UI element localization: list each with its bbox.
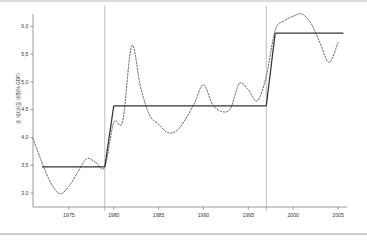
svg-text:3,0: 3,0 [21, 190, 28, 196]
svg-text:1980: 1980 [108, 212, 120, 218]
figure-bottom-margin [0, 235, 367, 243]
svg-text:5,5: 5,5 [21, 51, 28, 57]
svg-text:3,5: 3,5 [21, 162, 28, 168]
svg-text:1975: 1975 [63, 212, 75, 218]
svg-text:4,5: 4,5 [21, 106, 28, 112]
svg-text:1985: 1985 [153, 212, 165, 218]
svg-text:1995: 1995 [243, 212, 255, 218]
break-lines [105, 6, 266, 211]
y-tick-labels: 3,03,54,04,55,05,56,0 [21, 23, 28, 196]
x-tick-labels: 1975198019851990199520002005 [63, 212, 344, 218]
svg-text:2000: 2000 [287, 212, 299, 218]
chart-figure: 3,03,54,04,55,05,56,0 197519801985199019… [0, 0, 367, 243]
svg-text:6,0: 6,0 [21, 23, 28, 29]
plot-area: 3,03,54,04,55,05,56,0 197519801985199019… [0, 0, 367, 243]
svg-text:4,0: 4,0 [21, 134, 28, 140]
svg-text:2005: 2005 [332, 212, 344, 218]
svg-text:5,0: 5,0 [21, 79, 28, 85]
axes [31, 14, 348, 210]
step-mean-series-line [42, 33, 343, 167]
svg-text:1990: 1990 [198, 212, 210, 218]
y-axis-title: 총 복지지출 비중(% GDP) [17, 43, 22, 153]
chart-svg: 3,03,54,04,55,05,56,0 197519801985199019… [0, 0, 367, 243]
